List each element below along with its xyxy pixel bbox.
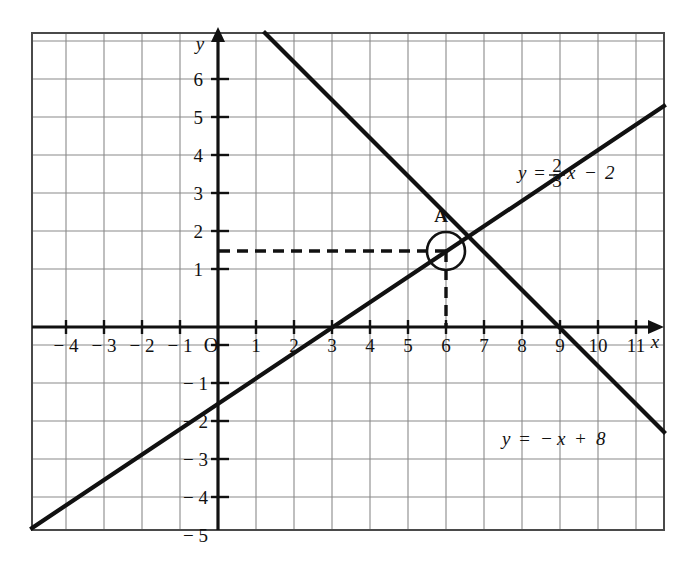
y-tick-label: 3 bbox=[194, 183, 204, 204]
equation-variable: x bbox=[556, 428, 566, 449]
equation-equals: = bbox=[533, 162, 546, 183]
y-tick-label: 1 bbox=[194, 259, 204, 280]
y-tick-label: 5 bbox=[194, 107, 204, 128]
origin-label: O bbox=[204, 334, 218, 356]
equation-equals: = bbox=[518, 428, 531, 449]
x-tick-label: 10 bbox=[589, 335, 608, 356]
equation-operator: − bbox=[584, 162, 597, 183]
equation-negative-operator: − bbox=[540, 428, 553, 449]
y-tick-label: − 3 bbox=[183, 449, 208, 470]
x-tick-label: − 4 bbox=[54, 335, 79, 356]
x-tick-label: 6 bbox=[441, 335, 451, 356]
graph-figure: − 4 − 3 − 2 − 1 1 2 3 4 5 6 7 8 9 10 11 … bbox=[0, 0, 687, 564]
x-tick-label: − 2 bbox=[130, 335, 155, 356]
y-tick-label: − 4 bbox=[183, 487, 208, 508]
x-tick-label: 7 bbox=[479, 335, 489, 356]
equation-lhs: y bbox=[516, 162, 527, 183]
x-tick-label: 1 bbox=[251, 335, 261, 356]
y-axis-label: y bbox=[194, 33, 205, 54]
x-tick-label: − 1 bbox=[168, 335, 193, 356]
x-tick-label: 9 bbox=[555, 335, 565, 356]
x-axis-label: x bbox=[650, 331, 660, 352]
y-tick-label: 4 bbox=[194, 145, 204, 166]
coordinate-plane-svg: − 4 − 3 − 2 − 1 1 2 3 4 5 6 7 8 9 10 11 … bbox=[0, 0, 687, 564]
point-a-label: A bbox=[434, 205, 448, 226]
x-tick-label: 11 bbox=[627, 335, 645, 356]
equation-variable: x bbox=[566, 162, 576, 183]
equation-constant: 2 bbox=[605, 162, 615, 183]
equation-constant: 8 bbox=[596, 428, 606, 449]
y-tick-label: 2 bbox=[194, 221, 204, 242]
y-tick-label: − 5 bbox=[183, 525, 208, 546]
x-tick-label: 4 bbox=[365, 335, 375, 356]
equation-lhs: y bbox=[500, 428, 511, 449]
x-tick-label: 5 bbox=[403, 335, 413, 356]
y-tick-label: − 1 bbox=[183, 373, 208, 394]
x-tick-label: − 3 bbox=[92, 335, 117, 356]
equation-fraction-denominator: 3 bbox=[552, 170, 562, 191]
x-tick-label: 8 bbox=[517, 335, 527, 356]
x-tick-label: 3 bbox=[327, 335, 337, 356]
equation-plus-operator: + bbox=[574, 428, 587, 449]
y-tick-label: 6 bbox=[194, 69, 204, 90]
